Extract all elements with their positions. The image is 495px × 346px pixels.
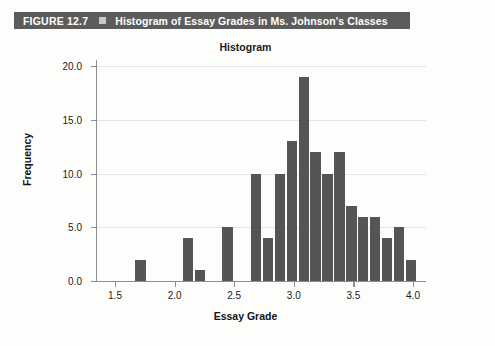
x-axis-tick [413,282,414,287]
x-axis-tick [353,282,354,287]
x-axis-tick [175,282,176,287]
x-axis-tick [234,282,235,287]
histogram-bar [222,227,232,281]
x-axis-tick-label: 3.5 [346,290,360,301]
y-axis-tick-label: 0.0 [68,276,82,287]
x-axis-line [96,281,426,282]
histogram-plot-area: 0.05.010.015.020.0 1.52.02.53.03.54.0 [96,60,426,288]
y-axis-tick: 10.0 [91,174,96,175]
x-axis-tick [294,282,295,287]
gridline [97,120,426,121]
y-axis-tick: 15.0 [91,120,96,121]
gridline [97,66,426,67]
y-axis-title: Frequency [21,133,33,186]
x-axis-title: Essay Grade [108,310,383,322]
x-axis-tick-label: 2.0 [168,290,182,301]
figure-caption-bar: FIGURE 12.7 Histogram of Essay Grades in… [14,12,410,29]
y-axis-tick-label: 20.0 [63,61,82,72]
histogram-bar [299,77,309,281]
square-bullet-icon [99,17,106,24]
x-axis-tick-label: 4.0 [406,290,420,301]
y-axis-tick-label: 5.0 [68,222,82,233]
histogram-bar [322,174,332,282]
histogram-bar [406,260,416,282]
histogram-bar [135,260,145,282]
figure-title: Histogram of Essay Grades in Ms. Johnson… [115,15,387,27]
x-axis-tick-label: 1.5 [108,290,122,301]
figure-page: FIGURE 12.7 Histogram of Essay Grades in… [0,0,495,346]
histogram-bar [394,227,404,281]
gridline [97,174,426,175]
histogram-bar [370,217,380,282]
x-axis-tick-label: 2.5 [227,290,241,301]
x-axis-tick [115,282,116,287]
histogram-bar [310,152,320,281]
y-axis-tick: 0.0 [91,281,96,282]
chart-title: Histogram [108,41,383,53]
histogram-bar [275,174,285,282]
histogram-bar [263,238,273,281]
histogram-bar [358,217,368,282]
x-axis-tick-label: 3.0 [287,290,301,301]
y-axis-tick-label: 10.0 [63,168,82,179]
histogram-bar [183,238,193,281]
figure-number: FIGURE 12.7 [23,15,88,27]
histogram-bar [287,141,297,281]
histogram-bar [195,270,205,281]
histogram-bar [251,174,261,282]
y-axis-tick: 5.0 [91,227,96,228]
y-axis-tick: 20.0 [91,66,96,67]
histogram-bar [346,206,356,281]
y-axis-tick-label: 15.0 [63,114,82,125]
histogram-bar [334,152,344,281]
histogram-bar [382,238,392,281]
y-axis-line [96,60,97,282]
